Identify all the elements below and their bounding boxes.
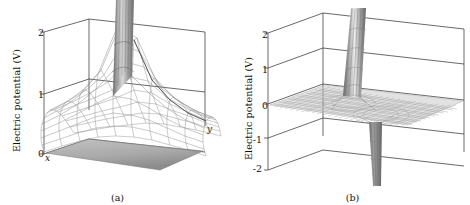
panel-a-base-plane (46, 139, 203, 170)
panel-b: Electric potential (V) 2 1 0 -1 -2 (235, 0, 470, 205)
electric-potential-figure: Electric potential (V) 2 1 0 x y (0, 0, 470, 205)
panel-b-surface-plot (235, 0, 470, 205)
panel-b-zero-plane-mesh (270, 85, 463, 125)
panel-a-caption: (a) (0, 192, 235, 203)
panel-b-caption: (b) (235, 192, 470, 203)
panel-a-singularity-peak (112, 0, 134, 96)
panel-b-negative-well (357, 116, 394, 186)
panel-a-surface-plot (0, 0, 235, 205)
panel-a: Electric potential (V) 2 1 0 x y (0, 0, 235, 205)
